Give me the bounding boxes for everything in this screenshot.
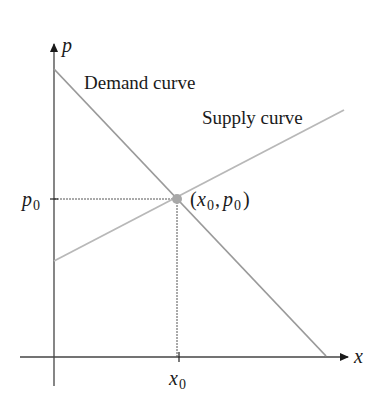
svg-text:0: 0 — [33, 198, 40, 213]
svg-text:): ) — [243, 188, 250, 211]
supply-demand-diagram: p x Demand curve Supply curve p 0 x 0 ( … — [0, 0, 381, 409]
supply-curve — [54, 110, 344, 261]
svg-text:,: , — [215, 188, 220, 210]
x0-label: x 0 — [168, 367, 186, 392]
x-axis-label: x — [353, 345, 363, 367]
svg-text:x: x — [168, 367, 178, 389]
svg-text:0: 0 — [234, 198, 241, 213]
svg-text:x: x — [196, 188, 206, 210]
svg-text:0: 0 — [207, 198, 214, 213]
p0-label: p 0 — [20, 188, 40, 213]
svg-text:p: p — [20, 188, 32, 211]
svg-text:0: 0 — [179, 377, 186, 392]
equilibrium-point — [172, 194, 182, 204]
equilibrium-label: ( x 0 , p 0 ) — [190, 188, 250, 213]
svg-text:p: p — [221, 188, 233, 211]
supply-curve-label: Supply curve — [202, 107, 303, 128]
svg-text:(: ( — [190, 188, 197, 211]
y-axis-label: p — [60, 34, 72, 57]
demand-curve-label: Demand curve — [84, 72, 195, 93]
